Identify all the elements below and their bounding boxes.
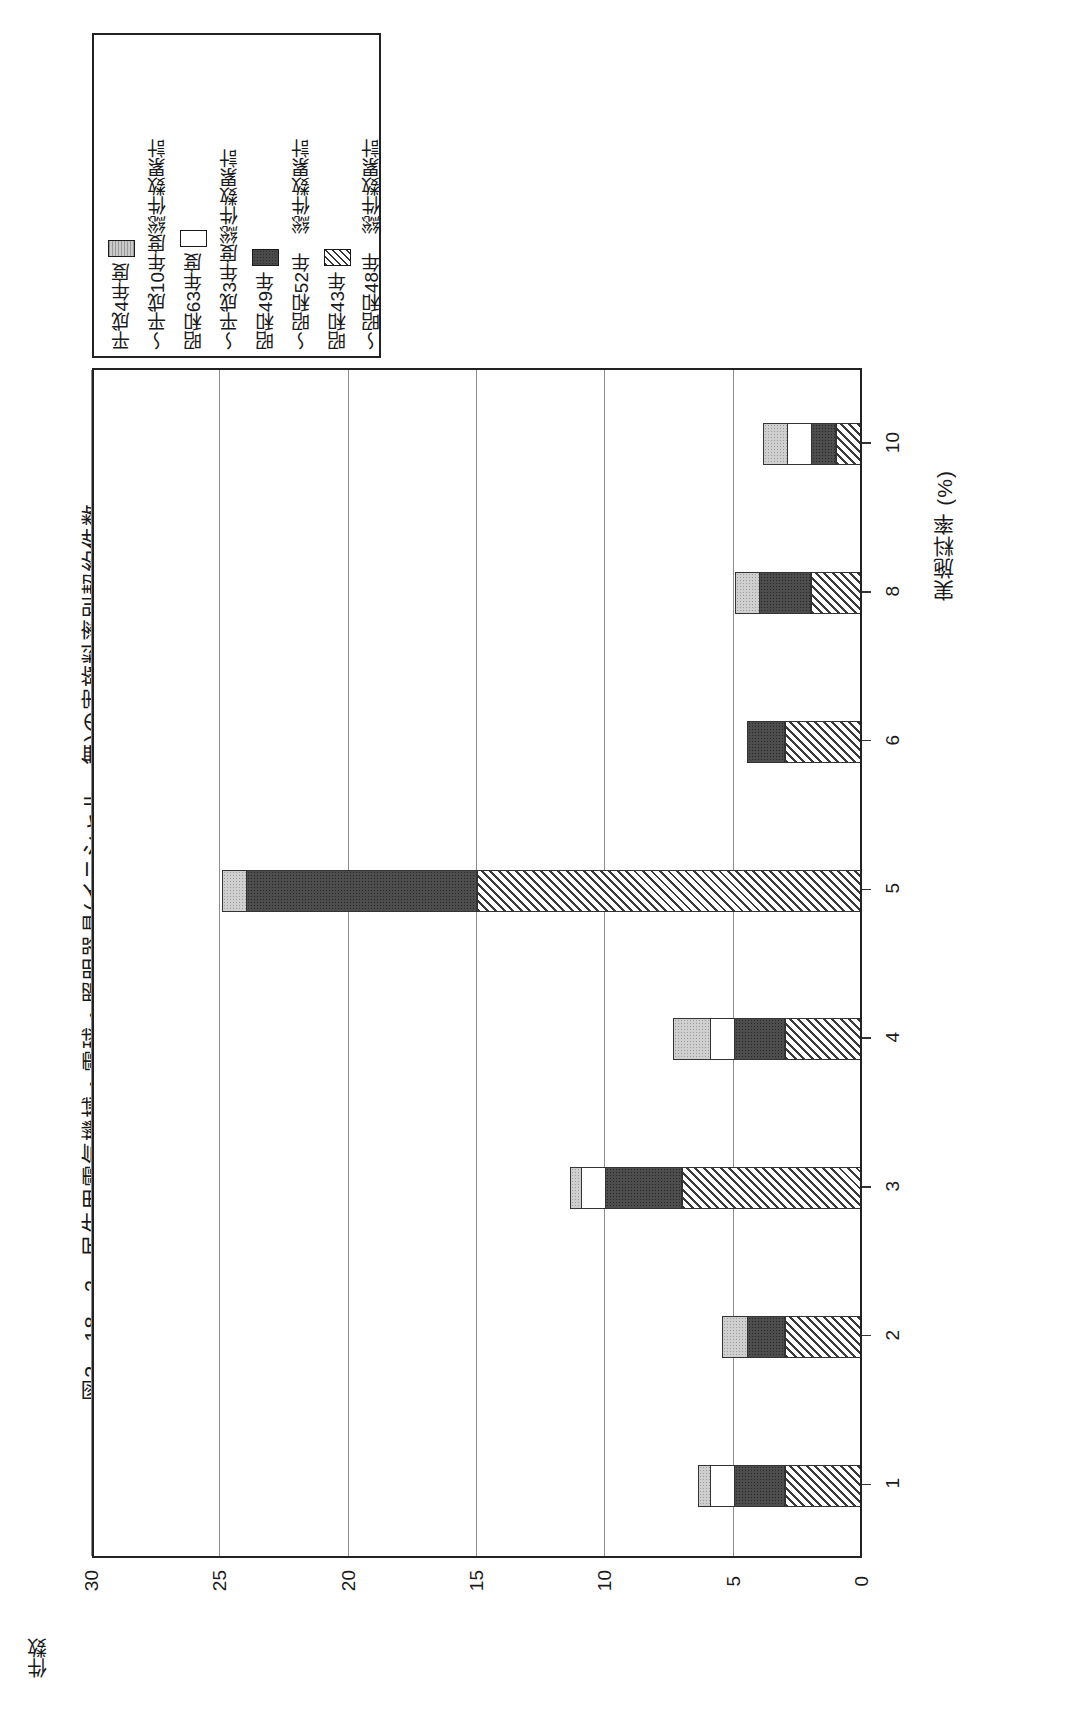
category-tick-label: 1: [882, 1478, 904, 1489]
bar-segment-gray: [222, 870, 248, 912]
bar-stack-4: [674, 1018, 862, 1060]
dark-dotted-swatch: [252, 249, 279, 266]
gridline-15: [476, 370, 477, 1556]
legend-item-7: ～昭和48年 総件数累計: [350, 137, 392, 350]
category-tick-mark: [862, 1186, 871, 1188]
value-tick-label: 30: [81, 1570, 103, 1591]
bar-segment-white: [787, 423, 813, 465]
legend-label-2: 昭和63年度: [184, 253, 203, 350]
bar-segment-gray: [673, 1018, 712, 1060]
bar-segment-hatch: [785, 1465, 862, 1507]
value-tick-label: 0: [851, 1576, 873, 1587]
bar-segment-dark: [734, 1018, 785, 1060]
bar-segment-white: [710, 1018, 736, 1060]
category-tick-label: 8: [882, 586, 904, 597]
value-axis-title: 件数: [28, 1638, 49, 1678]
category-tick-label: 2: [882, 1330, 904, 1341]
bar-stack-2: [724, 1316, 862, 1358]
bar-segment-hatch: [811, 572, 862, 614]
bar-segment-hatch: [785, 1018, 862, 1060]
value-tick-5: 5: [714, 1570, 754, 1592]
bar-stack-3: [572, 1167, 862, 1209]
bar-stack-1: [700, 1465, 862, 1507]
bar-segment-gray: [722, 1316, 748, 1358]
value-tick-20: 20: [329, 1570, 369, 1596]
category-tick-8: 8: [880, 578, 906, 604]
legend-label-3: ～平成3年度総件数累計: [220, 149, 239, 350]
legend-label-6: 昭和43年: [328, 272, 347, 350]
bar-stack-8: [737, 572, 862, 614]
chart-legend: 平成4年度 ～平成10年度総件数累計 昭和63年度 ～平成3年度総件数累計 昭和…: [92, 33, 381, 358]
bar-segment-hatch: [682, 1167, 862, 1209]
bar-segment-hatch: [785, 1316, 862, 1358]
legend-label-1: ～平成10年度総件数累計: [148, 139, 167, 350]
bar-segment-gray: [735, 572, 761, 614]
bar-segment-white: [581, 1167, 607, 1209]
gridline-30: [91, 370, 92, 1556]
value-tick-10: 10: [585, 1570, 625, 1596]
bar-stack-6: [748, 721, 862, 763]
category-tick-mark: [862, 442, 871, 444]
category-tick-4: 4: [880, 1024, 906, 1050]
bar-segment-dark: [811, 423, 837, 465]
category-tick-label: 4: [882, 1032, 904, 1043]
value-tick-label: 25: [209, 1570, 231, 1591]
gridline-20: [348, 370, 349, 1556]
legend-label-5: ～昭和52年 総件数累計: [292, 139, 311, 350]
value-tick-label: 10: [594, 1570, 616, 1591]
bar-segment-dark: [747, 721, 786, 763]
value-tick-25: 25: [200, 1570, 240, 1596]
white-swatch: [180, 230, 207, 247]
category-tick-label: 6: [882, 735, 904, 746]
value-tick-15: 15: [457, 1570, 497, 1596]
category-tick-mark: [862, 1484, 871, 1486]
category-tick-10: 10: [880, 429, 906, 455]
category-tick-label: 3: [882, 1181, 904, 1192]
legend-label-0: 平成4年度: [112, 263, 131, 350]
gridline-10: [604, 370, 605, 1556]
bar-segment-dark: [605, 1167, 682, 1209]
bar-segment-hatch: [836, 423, 862, 465]
legend-label-7: ～昭和48年 総件数累計: [362, 139, 381, 350]
category-tick-label: 10: [882, 432, 904, 453]
bar-segment-dark: [734, 1465, 785, 1507]
bar-stack-10: [764, 423, 862, 465]
category-tick-mark: [862, 591, 871, 593]
bar-segment-gray: [763, 423, 789, 465]
bar-stack-5: [224, 870, 862, 912]
category-tick-2: 2: [880, 1322, 906, 1348]
category-tick-mark: [862, 1037, 871, 1039]
bar-segment-dark: [747, 1316, 786, 1358]
legend-label-4: 昭和49年: [256, 272, 275, 350]
value-tick-label: 5: [723, 1576, 745, 1587]
bar-segment-hatch: [477, 870, 862, 912]
category-tick-6: 6: [880, 727, 906, 753]
category-tick-mark: [862, 1335, 871, 1337]
bar-segment-dark: [246, 870, 477, 912]
value-tick-label: 15: [466, 1570, 488, 1591]
category-axis-title: 実施料率 (%): [930, 470, 960, 601]
figure-page: 図2－18－2 民生用電気機械・電球・照明器具(イニシャル 無)の実施料率別契約…: [0, 0, 1090, 1710]
category-tick-mark: [862, 889, 871, 891]
value-tick-label: 20: [338, 1570, 360, 1591]
category-tick-5: 5: [880, 876, 906, 902]
gray-dotted-swatch: [108, 240, 135, 257]
plot-area: [92, 368, 862, 1558]
category-tick-1: 1: [880, 1471, 906, 1497]
bar-segment-dark: [759, 572, 810, 614]
gridline-25: [219, 370, 220, 1556]
gridline-5: [733, 370, 734, 1556]
diagonal-hatch-swatch: [324, 249, 351, 266]
bar-segment-hatch: [785, 721, 862, 763]
category-tick-3: 3: [880, 1173, 906, 1199]
category-tick-label: 5: [882, 883, 904, 894]
value-tick-0: 0: [842, 1570, 882, 1592]
value-axis-zero-line: [860, 370, 862, 1556]
category-tick-mark: [862, 740, 871, 742]
bar-segment-white: [710, 1465, 736, 1507]
value-tick-30: 30: [72, 1570, 112, 1596]
